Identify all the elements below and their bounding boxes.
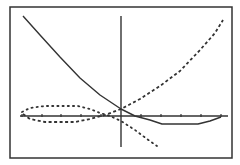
dotted-curve <box>22 106 157 146</box>
solid-curve <box>23 16 221 124</box>
graph-screen <box>0 0 240 165</box>
axes <box>20 16 228 147</box>
graph-plot <box>0 0 240 165</box>
curves <box>22 16 223 146</box>
